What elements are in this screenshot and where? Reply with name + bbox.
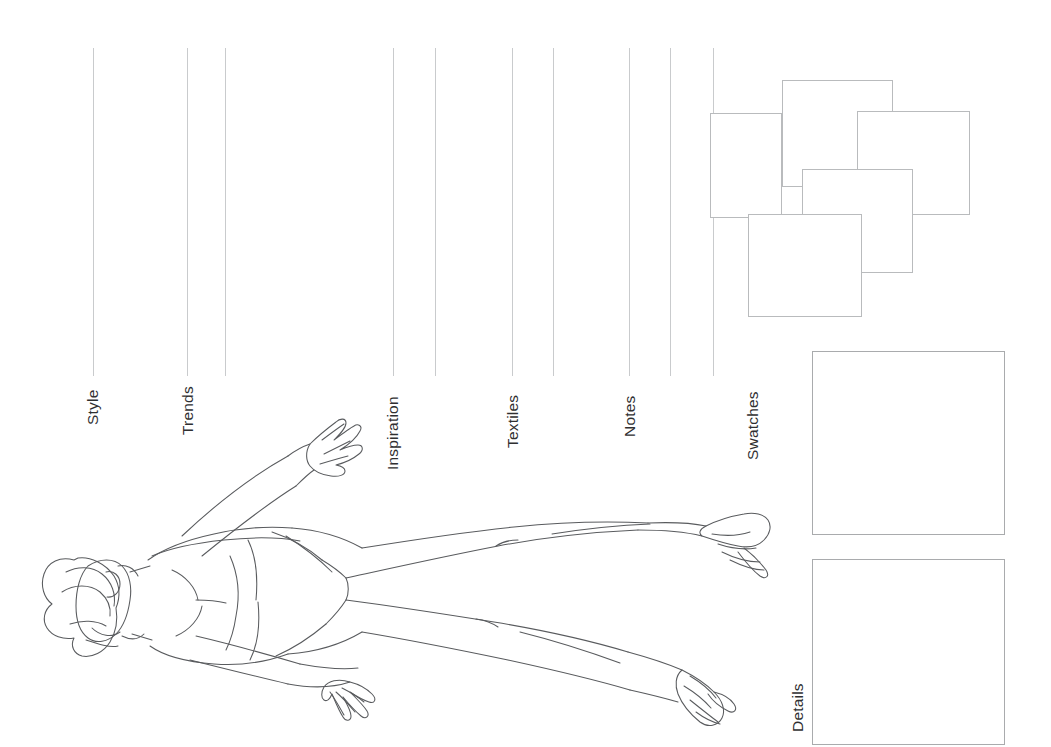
rule-line-textiles	[512, 48, 513, 376]
shoe-lower-outline	[676, 670, 723, 725]
shoulder-lower	[150, 646, 288, 665]
hair-strand-2	[62, 586, 110, 616]
arm-right-fore-b	[300, 664, 358, 669]
hair-outline	[42, 558, 118, 657]
leg-upper-top	[346, 530, 638, 578]
briefs-top	[272, 532, 322, 560]
hip-upper	[292, 528, 362, 548]
hair-strand-3	[70, 621, 106, 626]
waist-lower	[250, 602, 259, 660]
ear-line	[106, 572, 120, 597]
rule-line-style	[93, 48, 94, 376]
details-panel[interactable]	[812, 559, 1005, 745]
jaw-line	[92, 628, 120, 635]
swatch-square-bottom[interactable]	[748, 214, 862, 317]
arm-left-wrist	[288, 444, 310, 456]
section-label-inspiration: Inspiration	[385, 396, 401, 470]
shoe-upper-outline	[700, 513, 770, 547]
leg-lower-calf	[520, 632, 620, 663]
rule-line-divider-4	[670, 48, 671, 376]
arm-left-lower	[202, 486, 296, 556]
worksheet-page: StyleTrendsInspirationTextilesNotesSwatc…	[0, 0, 1051, 747]
leg-upper-calf	[552, 524, 650, 534]
neck-right	[132, 634, 152, 640]
arm-left-wrist2	[296, 470, 314, 486]
arm-right-fore-a	[288, 682, 350, 687]
rule-line-divider-3	[553, 48, 554, 376]
leg-lower-ankle-bottom	[630, 690, 678, 702]
hip-lower	[288, 632, 362, 654]
bust-line-lower	[176, 606, 202, 636]
leg-lower-ankle-top	[628, 652, 682, 670]
leg-upper-ankle-top	[638, 530, 702, 536]
arm-right-upper	[190, 660, 288, 684]
shoe-lower-sole	[690, 700, 718, 722]
hand-upper-detail-2	[324, 441, 350, 454]
shoe-upper-strap-1	[712, 532, 750, 535]
shoe-lower-detail	[696, 712, 720, 724]
leg-lower-top	[346, 600, 628, 652]
section-label-swatches: Swatches	[745, 391, 761, 460]
rule-line-divider-2	[435, 48, 436, 376]
shoe-lower-strap-2	[684, 686, 711, 708]
hand-lower-detail-3	[330, 692, 344, 715]
rule-line-divider-1	[225, 48, 226, 376]
head-outline	[76, 560, 131, 641]
shoe-upper-detail	[730, 560, 764, 570]
leg-upper-knee	[496, 540, 518, 546]
section-label-notes: Notes	[622, 396, 638, 438]
shoe-upper-sole	[722, 552, 760, 562]
briefs-seam	[346, 578, 348, 600]
leg-lower-knee	[476, 619, 498, 627]
swatch-square-left[interactable]	[710, 113, 782, 218]
rib-line	[226, 556, 238, 650]
leg-upper-ankle-bottom	[648, 523, 706, 526]
waist-upper	[248, 540, 257, 600]
swatches-panel[interactable]	[812, 351, 1005, 535]
shoe-upper-heel	[738, 548, 768, 578]
hair-strand-1	[66, 568, 115, 606]
hand-lower-detail-1	[342, 688, 364, 702]
neck-top	[118, 565, 138, 576]
leg-upper-bottom	[362, 522, 648, 548]
section-label-details: Details	[790, 683, 806, 732]
neck-bottom	[122, 634, 144, 639]
arm-right-lower	[196, 636, 300, 664]
shoe-lower-strap-1	[690, 676, 716, 698]
rule-line-trends	[187, 48, 188, 376]
hand-upper-detail-3	[320, 456, 348, 464]
rule-line-notes	[629, 48, 630, 376]
hand-lower-detail-2	[336, 692, 355, 712]
chest-center	[196, 600, 226, 603]
leg-lower-bottom	[362, 632, 630, 690]
briefs-crotch-lower	[326, 600, 346, 624]
hand-lower-outline	[322, 680, 375, 720]
shoe-upper-strap-2	[718, 544, 756, 549]
shoe-lower-heel	[708, 692, 736, 712]
section-label-style: Style	[85, 390, 101, 425]
neck-left	[130, 566, 150, 572]
section-label-textiles: Textiles	[505, 395, 521, 448]
hand-upper-outline	[307, 419, 363, 476]
briefs-bottom	[276, 624, 326, 656]
hand-upper-detail-1	[322, 424, 344, 440]
shoulder-upper	[148, 527, 292, 560]
briefs-crotch-upper	[322, 560, 346, 578]
briefs-edge-line	[286, 536, 332, 572]
hair-strand-4	[86, 640, 118, 647]
bust-line-upper	[172, 570, 198, 600]
rule-line-inspiration	[393, 48, 394, 376]
arm-left-upper	[182, 456, 288, 536]
torso-top-edge	[152, 538, 300, 556]
section-label-trends: Trends	[180, 386, 196, 435]
